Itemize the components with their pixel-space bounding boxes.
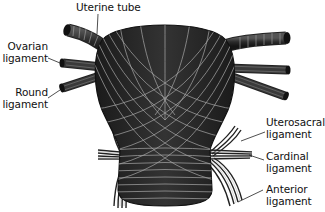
label-ovarian-ligament: Ovarian ligament [0,40,48,64]
label-anterior-line1: Anterior [266,183,312,195]
label-cardinal-ligament: Cardinal ligament [266,150,312,174]
uterus-ligament-diagram: Uterine tube Ovarian ligament Round liga… [0,0,325,212]
leader-uterosacral-ligament [241,132,265,141]
leader-round-ligament [48,90,60,98]
leader-anterior-ligament [238,190,263,202]
label-anterior-ligament: Anterior ligament [266,183,312,207]
label-uterine-tube: Uterine tube [76,1,141,13]
label-uterine-tube-text: Uterine tube [76,1,141,13]
leader-cardinal-ligament [249,155,264,160]
label-uterosacral-line2: ligament [266,128,325,140]
label-round-line2: ligament [0,98,48,110]
label-round-ligament: Round ligament [0,86,48,110]
label-ovarian-line2: ligament [0,52,48,64]
label-cardinal-line2: ligament [266,162,312,174]
label-round-line1: Round [0,86,48,98]
label-ovarian-line1: Ovarian [0,40,48,52]
label-uterosacral-line1: Uterosacral [266,116,325,128]
leader-uterine-tube [97,14,98,34]
label-anterior-line2: ligament [266,195,312,207]
label-uterosacral-ligament: Uterosacral ligament [266,116,325,140]
label-cardinal-line1: Cardinal [266,150,312,162]
uterus-illustration [0,0,325,212]
right-uterine-tube [224,32,291,49]
leader-ovarian-ligament [48,58,60,63]
right-ovarian-ligament [226,66,291,75]
